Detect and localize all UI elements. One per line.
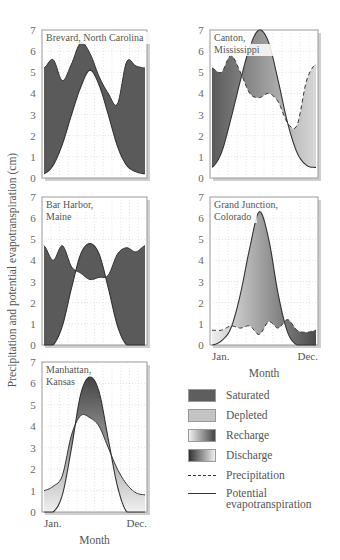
x-end-label: Dec. (298, 350, 319, 362)
chart-panel: 01234567Bar Harbor,Maine (30, 191, 150, 351)
saturated-swatch-icon (188, 389, 216, 402)
y-tick-label: 7 (30, 356, 36, 368)
x-start-label: Jan. (44, 517, 62, 529)
y-tick-label: 1 (30, 485, 36, 497)
legend-item-recharge: Recharge (188, 425, 338, 445)
y-tick-label: 5 (30, 233, 36, 245)
y-tick-label: 2 (198, 130, 204, 142)
y-tick-label: 1 (198, 318, 204, 330)
x-axis-label: Month (79, 534, 110, 546)
y-tick-label: 1 (30, 318, 36, 330)
panel-title: Colorado (214, 211, 251, 222)
panel-title: Kansas (46, 376, 75, 387)
legend-item-depleted: Depleted (188, 405, 338, 425)
y-tick-label: 6 (198, 45, 204, 57)
legend-item-discharge: Discharge (188, 445, 338, 465)
y-tick-label: 4 (30, 420, 36, 432)
legend-item-pet: Potential evapotranspiration (188, 485, 338, 515)
x-axis-label: Month (249, 367, 280, 379)
panel-title: Grand Junction, (214, 199, 278, 210)
y-tick-label: 5 (30, 399, 36, 411)
y-tick-label: 5 (198, 233, 204, 245)
y-tick-label: 2 (30, 463, 36, 475)
y-tick-label: 5 (198, 66, 204, 78)
y-tick-label: 6 (30, 377, 36, 389)
depleted-swatch-icon (188, 409, 216, 422)
y-tick-label: 4 (198, 254, 204, 266)
legend-item-saturated: Saturated (188, 385, 338, 405)
x-end-label: Dec. (127, 517, 148, 529)
y-tick-label: 3 (30, 276, 36, 288)
y-tick-label: 3 (30, 109, 36, 121)
y-axis-label: Precipitation and potential evapotranspi… (2, 60, 22, 480)
y-tick-label: 0 (30, 506, 36, 518)
y-tick-label: 1 (30, 151, 36, 163)
dashed-line-icon (188, 475, 216, 476)
y-tick-label: 4 (30, 254, 36, 266)
y-tick-label: 0 (198, 172, 204, 184)
y-tick-label: 3 (30, 442, 36, 454)
discharge-swatch-icon (188, 449, 216, 462)
chart-panel: 01234567Canton,Mississippi (198, 24, 321, 184)
x-start-label: Jan. (212, 350, 230, 362)
y-tick-label: 7 (30, 191, 36, 203)
y-tick-label: 7 (198, 24, 204, 36)
recharge-swatch-icon (188, 429, 216, 442)
y-tick-label: 3 (198, 276, 204, 288)
y-tick-label: 3 (198, 109, 204, 121)
y-tick-label: 2 (198, 297, 204, 309)
y-tick-label: 5 (30, 66, 36, 78)
y-tick-label: 7 (30, 24, 36, 36)
y-tick-label: 0 (198, 339, 204, 351)
y-tick-label: 0 (30, 172, 36, 184)
chart-panel: 01234567Grand Junction,ColoradoJan.Dec.M… (198, 191, 321, 379)
y-tick-label: 2 (30, 297, 36, 309)
panel-title: Maine (46, 211, 72, 222)
panel-title: Mississippi (214, 44, 260, 55)
y-tick-label: 7 (198, 191, 204, 203)
panel-title: Bar Harbor, (46, 199, 93, 210)
panel-title: Canton, (214, 32, 245, 43)
y-tick-label: 1 (198, 151, 204, 163)
y-tick-label: 6 (30, 45, 36, 57)
panel-title: Manhattan, (46, 364, 91, 375)
solid-line-icon (188, 493, 216, 494)
y-tick-label: 6 (30, 212, 36, 224)
legend: Saturated Depleted Recharge Discharge Pr… (188, 385, 338, 515)
y-tick-label: 6 (198, 212, 204, 224)
y-tick-label: 4 (198, 87, 204, 99)
legend-item-precipitation: Precipitation (188, 465, 338, 485)
panel-title: Brevard, North Carolina (46, 32, 144, 43)
chart-panel: 01234567Brevard, North Carolina (30, 24, 173, 184)
y-tick-label: 0 (30, 339, 36, 351)
y-tick-label: 4 (30, 87, 36, 99)
y-tick-label: 2 (30, 130, 36, 142)
chart-panel: 01234567Manhattan,KansasJan.Dec.Month (30, 356, 150, 546)
